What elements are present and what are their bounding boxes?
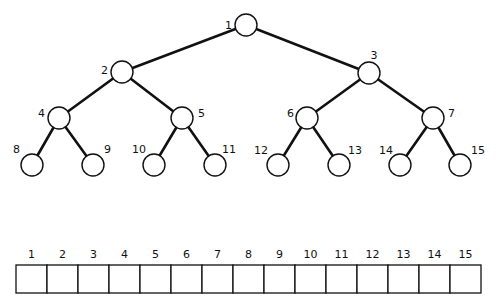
- array-cell-box: [388, 265, 419, 293]
- array-cell: 2: [47, 248, 78, 293]
- array-index-label: 13: [397, 248, 411, 261]
- array-cell: 9: [264, 248, 295, 293]
- array-index-label: 11: [335, 248, 349, 261]
- array-cell: 15: [450, 248, 481, 293]
- node-circle: [358, 62, 380, 84]
- array-cell: 12: [357, 248, 388, 293]
- node-label: 14: [379, 144, 393, 157]
- array-cell: 13: [388, 248, 419, 293]
- array-cell-box: [16, 265, 47, 293]
- node-label: 3: [371, 49, 378, 62]
- array-cell: 8: [233, 248, 264, 293]
- array-cell-box: [295, 265, 326, 293]
- array-index-label: 2: [59, 248, 66, 261]
- array-index-label: 12: [366, 248, 380, 261]
- node-circle: [328, 154, 350, 176]
- node-circle: [267, 154, 289, 176]
- array-representation: 123456789101112131415: [16, 248, 481, 293]
- array-cell-box: [171, 265, 202, 293]
- array-cell-box: [140, 265, 171, 293]
- array-index-label: 3: [90, 248, 97, 261]
- node-label: 11: [222, 143, 236, 156]
- array-cell: 11: [326, 248, 357, 293]
- array-cell-box: [326, 265, 357, 293]
- tree-edge: [59, 72, 122, 118]
- node-label: 9: [104, 143, 111, 156]
- tree-node: 8: [13, 143, 43, 176]
- array-index-label: 4: [121, 248, 128, 261]
- tree-node: 9: [82, 143, 111, 176]
- node-label: 10: [132, 143, 146, 156]
- node-circle: [21, 154, 43, 176]
- tree-edge: [369, 73, 433, 118]
- array-index-label: 7: [214, 248, 221, 261]
- array-cell-box: [47, 265, 78, 293]
- array-index-label: 6: [183, 248, 190, 261]
- array-index-label: 9: [276, 248, 283, 261]
- node-circle: [235, 14, 257, 36]
- tree-node: 14: [379, 144, 411, 176]
- tree-edges: [32, 25, 460, 165]
- node-label: 4: [38, 107, 45, 120]
- binary-tree-array-diagram: 123456789101112131415 123456789101112131…: [0, 0, 500, 307]
- array-cell: 5: [140, 248, 171, 293]
- array-index-label: 1: [28, 248, 35, 261]
- node-label: 12: [254, 144, 268, 157]
- node-label: 1: [225, 19, 232, 32]
- array-index-label: 14: [428, 248, 442, 261]
- node-label: 15: [471, 144, 485, 157]
- node-label: 5: [198, 107, 205, 120]
- node-circle: [111, 61, 133, 83]
- tree-node: 4: [38, 107, 70, 129]
- array-cell-box: [264, 265, 295, 293]
- array-cell: 4: [109, 248, 140, 293]
- node-label: 2: [101, 64, 108, 77]
- tree-node: 10: [132, 143, 165, 176]
- node-circle: [449, 154, 471, 176]
- tree-node: 1: [225, 14, 257, 36]
- node-circle: [296, 107, 318, 129]
- array-cell: 14: [419, 248, 450, 293]
- array-cell: 3: [78, 248, 109, 293]
- tree-edge: [122, 25, 246, 72]
- tree-node: 12: [254, 144, 289, 176]
- array-cell: 10: [295, 248, 326, 293]
- array-index-label: 10: [304, 248, 318, 261]
- node-circle: [389, 154, 411, 176]
- tree-edge: [246, 25, 369, 73]
- tree-node: 15: [449, 144, 485, 176]
- array-cell: 1: [16, 248, 47, 293]
- node-label: 7: [448, 107, 455, 120]
- node-label: 8: [13, 143, 20, 156]
- node-circle: [82, 154, 104, 176]
- array-cell-box: [78, 265, 109, 293]
- tree-node: 11: [204, 143, 236, 176]
- node-circle: [422, 107, 444, 129]
- array-index-label: 15: [459, 248, 473, 261]
- array-cell-box: [419, 265, 450, 293]
- array-index-label: 5: [152, 248, 159, 261]
- tree-node: 3: [358, 49, 380, 84]
- tree-node: 13: [328, 144, 362, 176]
- array-cell-box: [357, 265, 388, 293]
- array-cell-box: [450, 265, 481, 293]
- node-circle: [204, 154, 226, 176]
- node-circle: [171, 107, 193, 129]
- node-circle: [48, 107, 70, 129]
- array-cell: 6: [171, 248, 202, 293]
- array-cell: 7: [202, 248, 233, 293]
- node-label: 13: [348, 144, 362, 157]
- tree-node: 2: [101, 61, 133, 83]
- tree-node: 7: [422, 107, 455, 129]
- array-cell-box: [109, 265, 140, 293]
- array-index-label: 8: [245, 248, 252, 261]
- node-circle: [143, 154, 165, 176]
- tree-node: 6: [287, 107, 318, 129]
- node-label: 6: [287, 107, 294, 120]
- array-cell-box: [202, 265, 233, 293]
- array-cell-box: [233, 265, 264, 293]
- tree-node: 5: [171, 107, 205, 129]
